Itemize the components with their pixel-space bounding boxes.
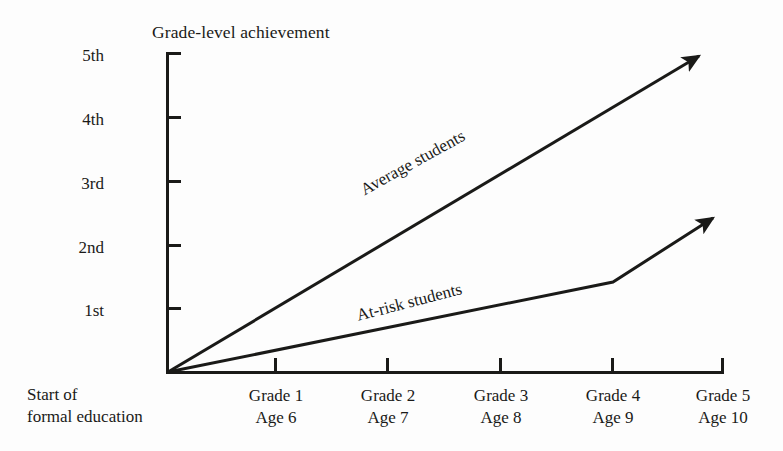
x-tick-grade-text-1: Grade 1 — [216, 385, 336, 407]
x-tick-grade-text-2: Grade 2 — [328, 385, 448, 407]
chart-figure: Grade-level achievement 5th 4th 3rd 2nd … — [0, 0, 783, 451]
x-tick-label-grade-2: Grade 2 Age 7 — [328, 385, 448, 429]
x-axis-ticks — [276, 358, 723, 372]
x-tick-label-grade-5: Grade 5 Age 10 — [663, 385, 783, 429]
y-tick-label-3rd: 3rd — [48, 175, 104, 192]
x-tick-age-text-1: Age 6 — [216, 407, 336, 429]
x-tick-age-text-5: Age 10 — [663, 407, 783, 429]
x-tick-label-grade-1: Grade 1 Age 6 — [216, 385, 336, 429]
x-tick-label-grade-3: Grade 3 Age 8 — [441, 385, 561, 429]
y-axis-ticks — [167, 54, 181, 309]
y-axis-title: Grade-level achievement — [152, 22, 330, 43]
y-tick-label-2nd: 2nd — [48, 239, 104, 256]
y-tick-label-1st: 1st — [48, 302, 104, 319]
x-tick-age-text-4: Age 9 — [553, 407, 673, 429]
x-tick-grade-text-5: Grade 5 — [663, 385, 783, 407]
origin-label-line-1: Start of — [27, 384, 143, 406]
origin-label-line-2: formal education — [27, 406, 143, 428]
x-axis-origin-label: Start of formal education — [27, 384, 143, 428]
x-tick-age-text-2: Age 7 — [328, 407, 448, 429]
y-tick-label-4th: 4th — [48, 111, 104, 128]
x-tick-grade-text-3: Grade 3 — [441, 385, 561, 407]
y-tick-label-5th: 5th — [48, 47, 104, 64]
x-tick-grade-text-4: Grade 4 — [553, 385, 673, 407]
x-tick-age-text-3: Age 8 — [441, 407, 561, 429]
series-line-average-students — [168, 56, 699, 372]
x-tick-label-grade-4: Grade 4 Age 9 — [553, 385, 673, 429]
